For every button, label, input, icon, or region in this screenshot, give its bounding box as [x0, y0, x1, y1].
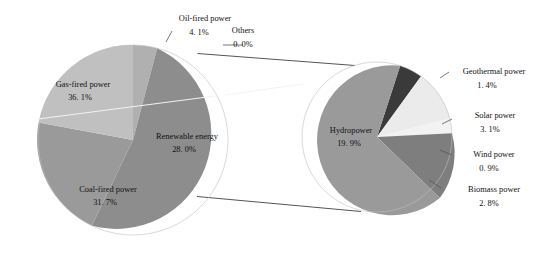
label-oil-fired-power-value: 4. 1%	[189, 28, 209, 37]
label-others-name: Others	[232, 26, 254, 35]
label-geothermal-power-name: Geothermal power	[463, 67, 526, 76]
label-biomass-power-name: Biomass power	[468, 185, 520, 194]
label-coal-fired-power-name: Coal-fired power	[79, 185, 137, 194]
chart-canvas: Oil-fired power 4. 1% Others 0. 0% Gas-f…	[0, 0, 540, 259]
label-others-value: 0. 0%	[233, 40, 253, 49]
label-renewable-energy-value: 28. 0%	[172, 145, 196, 154]
label-geothermal-power-value: 1. 4%	[477, 81, 497, 90]
connector-line-bottom	[197, 197, 361, 212]
label-gas-fired-power-value: 36. 1%	[68, 93, 92, 102]
label-hydropower-value: 19. 9%	[337, 139, 361, 148]
label-biomass-power-value: 2. 8%	[479, 199, 499, 208]
label-wind-power-name: Wind power	[473, 150, 515, 159]
pie-chart-figure: Oil-fired power 4. 1% Others 0. 0% Gas-f…	[0, 0, 540, 259]
label-hydropower-name: Hydropower	[330, 126, 373, 135]
label-wind-power-value: 0. 9%	[479, 164, 499, 173]
label-solar-power-value: 3. 1%	[480, 125, 500, 134]
label-oil-fired-power-name: Oil-fired power	[179, 14, 232, 23]
label-renewable-energy-name: Renewable energy	[156, 132, 219, 141]
leader-line-oil-fired	[166, 31, 172, 42]
connector-line-top	[198, 54, 356, 66]
renewable-detail-pie	[302, 62, 455, 215]
leader-line-geothermal	[440, 72, 449, 78]
label-gas-fired-power-name: Gas-fired power	[56, 80, 111, 89]
leader-line-hydro-top	[225, 84, 303, 95]
label-coal-fired-power-value: 31. 7%	[93, 198, 117, 207]
label-solar-power-name: Solar power	[475, 111, 516, 120]
